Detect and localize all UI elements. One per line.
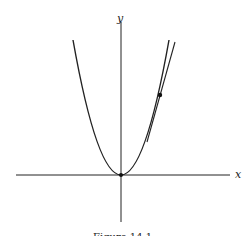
tangency-point	[158, 93, 162, 97]
tangent-line	[147, 42, 175, 142]
x-axis-label: x	[235, 168, 242, 181]
parabola-tangent-diagram: y x Figure 14.1	[0, 0, 251, 236]
figure-caption: Figure 14.1	[93, 231, 152, 236]
origin-point	[119, 173, 123, 177]
y-axis-label: y	[116, 12, 124, 25]
